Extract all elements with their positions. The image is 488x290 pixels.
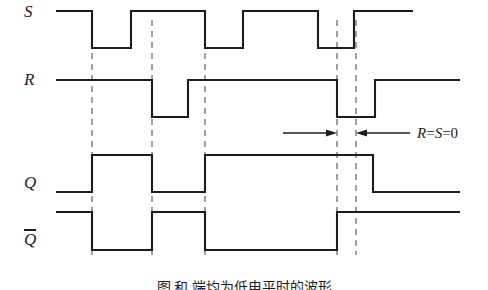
- qbar-letter: Q: [24, 230, 36, 249]
- annotation-equals-2: =: [442, 125, 450, 141]
- annotation-equals-1: =: [426, 125, 434, 141]
- figure-caption: 图 和 端均为低电平时的波形: [0, 276, 488, 290]
- annotation-zero-value: 0: [451, 125, 459, 141]
- annotation-r-equals-s-equals-zero: R=S=0: [417, 125, 458, 142]
- qbar-overline-group: Q: [24, 231, 36, 248]
- overline-bar: [24, 229, 36, 231]
- waveform-label-s: S: [24, 3, 33, 20]
- waveform-label-qbar: Q: [24, 231, 36, 248]
- annotation-r-letter: R: [417, 125, 426, 141]
- waveform-label-r: R: [24, 71, 34, 88]
- waveform-label-q: Q: [24, 174, 36, 191]
